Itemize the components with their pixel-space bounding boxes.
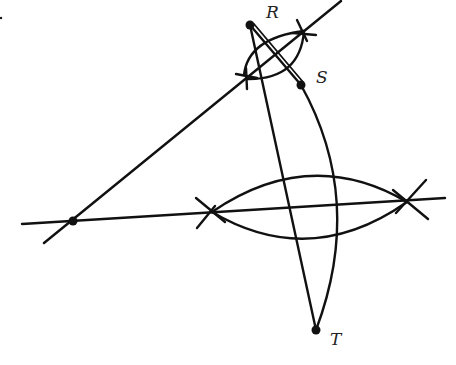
label-s: S bbox=[316, 67, 328, 87]
point-t bbox=[312, 326, 321, 335]
tick-left-2 bbox=[197, 206, 215, 228]
point-s bbox=[297, 81, 306, 90]
bisector-line-horizontal bbox=[22, 198, 445, 224]
tick-right-1 bbox=[393, 190, 428, 219]
stray-dot bbox=[0, 17, 2, 19]
construction-diagram: R S T bbox=[0, 0, 456, 365]
label-t: T bbox=[330, 329, 343, 349]
point-intersection bbox=[69, 217, 78, 226]
tick-upper-2 bbox=[293, 33, 316, 35]
point-r bbox=[246, 21, 255, 30]
tick-lower-2 bbox=[246, 68, 247, 89]
label-r: R bbox=[265, 2, 279, 22]
